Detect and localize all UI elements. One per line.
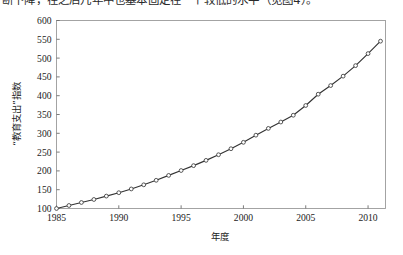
data-point-marker (154, 178, 158, 182)
data-point-marker (329, 84, 333, 88)
x-tick-label: 2005 (296, 212, 315, 223)
data-point-marker (304, 104, 308, 108)
series-markers (55, 39, 383, 210)
y-tick-label: 450 (37, 71, 52, 82)
x-axis-tick-labels: 198519901995200020052010 (47, 212, 378, 223)
data-point-marker (204, 158, 208, 162)
y-tick-label: 250 (37, 147, 52, 158)
plot-frame (57, 21, 386, 209)
data-point-marker (104, 194, 108, 198)
y-axis-ticks (57, 21, 60, 209)
x-tick-label: 1985 (47, 212, 66, 223)
data-point-marker (279, 120, 283, 124)
data-point-marker (291, 113, 295, 117)
y-tick-label: 150 (37, 184, 52, 195)
line-chart: 100150200250300350400450500550600 198519… (0, 0, 403, 255)
data-point-marker (254, 133, 258, 137)
data-point-marker (266, 127, 270, 131)
x-tick-label: 1990 (109, 212, 128, 223)
data-point-marker (316, 92, 320, 96)
y-tick-label: 400 (37, 90, 52, 101)
data-point-marker (217, 153, 221, 157)
y-tick-label: 350 (37, 109, 52, 120)
data-point-marker (242, 140, 246, 144)
y-tick-label: 200 (37, 165, 52, 176)
y-tick-label: 500 (37, 53, 52, 64)
data-point-marker (117, 191, 121, 195)
data-point-marker (92, 198, 96, 202)
data-point-marker (67, 204, 71, 208)
x-axis-ticks (57, 205, 369, 208)
x-axis-title: 年度 (211, 231, 229, 242)
data-point-marker (192, 164, 196, 168)
y-tick-label: 300 (37, 128, 52, 139)
x-tick-label: 1995 (172, 212, 191, 223)
series-line-education-expenditure (57, 41, 381, 208)
x-tick-label: 2000 (234, 212, 253, 223)
data-point-marker (80, 201, 84, 205)
figure-container: 断下降，在之后几年中也基本固定在一个较低的水平（见图4）。 1001502002… (0, 0, 403, 255)
data-point-marker (229, 147, 233, 151)
data-point-marker (55, 207, 59, 211)
y-axis-title: “教育支出”指数 (11, 81, 22, 146)
data-point-marker (179, 169, 183, 173)
y-tick-label: 600 (37, 15, 52, 26)
y-tick-label: 550 (37, 34, 52, 45)
data-point-marker (379, 39, 383, 43)
data-point-marker (167, 174, 171, 178)
data-point-marker (366, 52, 370, 56)
data-point-marker (341, 74, 345, 78)
data-point-marker (142, 183, 146, 187)
data-point-marker (354, 64, 358, 68)
y-axis-tick-labels: 100150200250300350400450500550600 (37, 15, 52, 214)
data-point-marker (129, 187, 133, 191)
x-tick-label: 2010 (358, 212, 377, 223)
